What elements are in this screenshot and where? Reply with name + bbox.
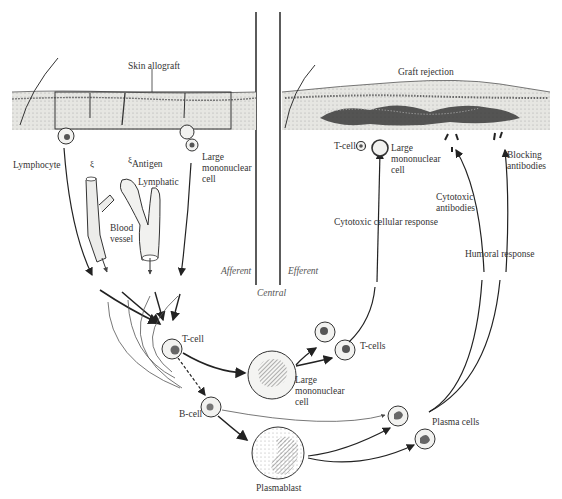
b-to-plasmablast-arrow (218, 416, 247, 440)
label-efferent: Efferent (288, 266, 318, 277)
label-large-mononuclear-cell-central: Large mononuclear cell (295, 375, 350, 408)
svg-text:ξ: ξ (90, 159, 94, 169)
phase-dividers (256, 12, 280, 285)
label-t-cells: T-cells (360, 341, 386, 352)
b-cell (201, 397, 221, 417)
label-graft-rejection: Graft rejection (398, 67, 454, 78)
label-cytotoxic-antibodies: Cytotoxic antibodies (436, 192, 486, 214)
t-to-large-cell-arrow (183, 353, 245, 373)
large-mononuclear-cell-central (248, 351, 296, 399)
label-lymphocyte: Lymphocyte (13, 160, 61, 171)
label-lymphatic: Lymphatic (138, 177, 179, 188)
label-efferent-large-mononuclear-cell: Large mononuclear cell (391, 143, 446, 176)
antigen-icons: ξ ξ (90, 155, 132, 169)
label-plasma-cells: Plasma cells (432, 417, 479, 428)
label-efferent-t-cell: T-cell (334, 141, 356, 152)
label-cytotoxic-cellular-response: Cytotoxic cellular response (334, 217, 438, 228)
plasma-cells (388, 406, 435, 449)
label-plasmablast: Plasmablast (256, 483, 301, 494)
label-skin-allograft: Skin allograft (128, 61, 180, 72)
label-antigen: Antigen (132, 159, 163, 170)
large-to-tcells-arrows (296, 348, 332, 366)
plasmablast-cell (252, 427, 304, 479)
label-humoral-response: Humoral response (465, 249, 534, 260)
t-cells-products (315, 322, 355, 360)
efferent-large-mononuclear-cell (372, 140, 388, 156)
t-cell-central (162, 339, 182, 359)
label-blocking-antibodies: Blocking antibodies (507, 150, 559, 172)
afferent-arrows (64, 148, 191, 275)
t-to-b-cell-arrow (178, 358, 205, 395)
label-blood-vessel: Blood vessel (110, 223, 138, 245)
label-b-cell: B-cell (179, 409, 202, 420)
efferent-arrows (349, 150, 508, 412)
label-central: Central (257, 288, 286, 299)
efferent-t-cell (357, 142, 366, 151)
lymphocyte-cell (58, 128, 74, 144)
plasmablast-to-plasma-arrows (308, 428, 414, 462)
label-afferent: Afferent (221, 266, 251, 277)
label-large-mononuclear-cell-left: Large mononuclear cell (202, 152, 257, 185)
label-t-cell-central: T-cell (182, 334, 204, 345)
b-to-plasma-arrow (222, 410, 385, 421)
antibody-marks (445, 132, 502, 152)
